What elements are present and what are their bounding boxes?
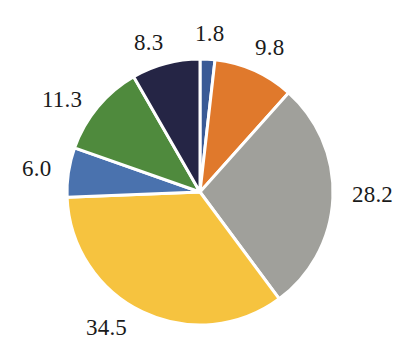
- pie-label-slice-1: 1.8: [195, 22, 224, 45]
- pie-label-slice-6: 11.3: [42, 88, 82, 111]
- pie-label-slice-7: 8.3: [134, 31, 163, 54]
- pie-slice-group: [67, 59, 333, 325]
- pie-label-slice-5: 6.0: [22, 157, 51, 180]
- pie-label-slice-4: 34.5: [86, 316, 127, 339]
- pie-chart: 1.8 9.8 28.2 34.5 6.0 11.3 8.3: [0, 0, 414, 363]
- pie-label-slice-2: 9.8: [255, 36, 284, 59]
- pie-label-slice-3: 28.2: [352, 183, 393, 206]
